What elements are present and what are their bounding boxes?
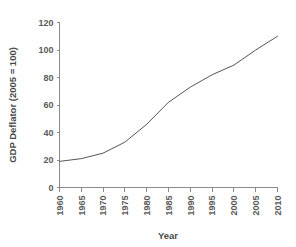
y-tick-label: 0 xyxy=(48,183,53,193)
x-tick-label: 1995 xyxy=(207,196,217,216)
data-series-group xyxy=(60,36,278,161)
x-tick-label: 1970 xyxy=(98,196,108,216)
y-tick-labels: 020406080100120 xyxy=(38,18,53,193)
x-tick-labels: 1960196519701975198019851990199520002005… xyxy=(55,196,283,216)
y-axis-group: 020406080100120 xyxy=(38,18,59,193)
x-axis-group: 1960196519701975198019851990199520002005… xyxy=(55,188,283,216)
x-tick-label: 1960 xyxy=(55,196,65,216)
y-tick-label: 120 xyxy=(38,18,53,28)
x-tick-label: 2010 xyxy=(273,196,283,216)
y-axis-title: GDP Deflator (2005 = 100) xyxy=(7,47,18,163)
x-tick-label: 1975 xyxy=(120,196,130,216)
x-tick-label: 2000 xyxy=(229,196,239,216)
x-tick-label: 1990 xyxy=(186,196,196,216)
x-tick-label: 2005 xyxy=(251,196,261,216)
chart-canvas: 020406080100120 196019651970197519801985… xyxy=(0,0,296,247)
y-tick-label: 100 xyxy=(38,45,53,55)
x-tick-label: 1985 xyxy=(164,196,174,216)
data-line-gdp-deflator xyxy=(60,36,278,161)
y-tick-label: 80 xyxy=(43,73,53,83)
x-tick-label: 1980 xyxy=(142,196,152,216)
x-tick-label: 1965 xyxy=(77,196,87,216)
x-tick-marks xyxy=(60,188,278,192)
y-tick-label: 20 xyxy=(43,155,53,165)
x-axis-title: Year xyxy=(158,230,178,241)
y-tick-label: 40 xyxy=(43,128,53,138)
y-tick-label: 60 xyxy=(43,100,53,110)
gdp-deflator-chart: 020406080100120 196019651970197519801985… xyxy=(0,0,296,247)
